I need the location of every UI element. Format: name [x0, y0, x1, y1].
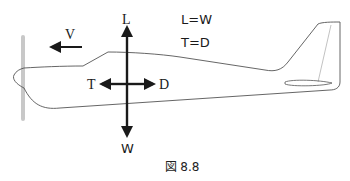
lift-label: L	[122, 12, 131, 27]
rudder-line	[318, 25, 331, 82]
horizontal-stabilizer	[285, 80, 332, 86]
velocity-label: V	[65, 27, 75, 42]
equation-lift-weight: L=W	[181, 12, 212, 27]
airplane-force-diagram: L W T D V L=W T=D	[0, 0, 350, 181]
thrust-label: T	[87, 77, 96, 92]
weight-label: W	[121, 141, 134, 156]
equation-thrust-drag: T=D	[180, 35, 210, 50]
drag-label: D	[159, 77, 169, 92]
figure-caption: 図 8.8	[0, 157, 350, 174]
propeller	[21, 35, 25, 121]
fuselage-outline	[13, 22, 340, 108]
